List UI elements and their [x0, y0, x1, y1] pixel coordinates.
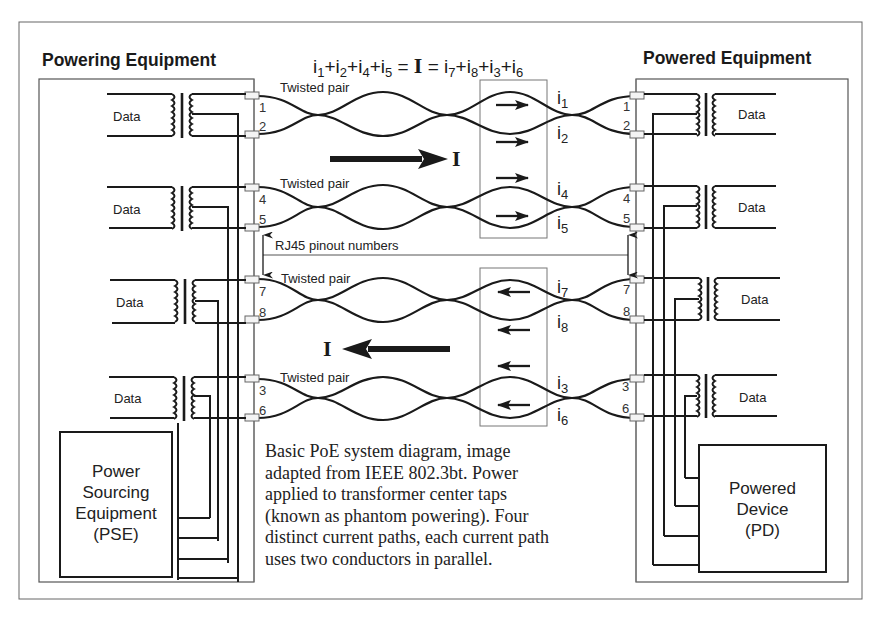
eq-i8: i8: [467, 56, 478, 77]
pse-pin-1: 1: [259, 101, 266, 114]
current-i5: i5: [557, 214, 568, 235]
pse-pin-7: 7: [259, 285, 266, 298]
pd-pin-3: 3: [622, 380, 629, 393]
total-current-forward-label: I: [452, 148, 461, 170]
pd-pin-4: 4: [623, 192, 630, 205]
current-i4: i4: [557, 180, 568, 201]
pse-data-label-4: Data: [114, 392, 141, 405]
powered-equipment-title: Powered Equipment: [643, 50, 811, 68]
current-i3: i3: [557, 374, 568, 395]
twisted-pair-label-3: Twisted pair: [281, 272, 350, 285]
eq-i1: i1: [313, 56, 324, 77]
pd-pin-7: 7: [623, 283, 630, 296]
pd-pin-2: 2: [623, 119, 630, 132]
pse-data-label-1: Data: [113, 110, 140, 123]
pd-pin-5: 5: [623, 212, 630, 225]
pse-pin-6: 6: [259, 404, 266, 417]
twisted-pair-label-2: Twisted pair: [280, 177, 349, 190]
eq-i4: i4: [358, 56, 369, 77]
pd-pin-6: 6: [622, 402, 629, 415]
current-equation: i1+i2+i4+i5 = I = i7+i8+i3+i6: [313, 55, 523, 79]
current-i2: i2: [557, 124, 568, 145]
pd-data-label-3: Data: [741, 293, 768, 306]
current-i6: i6: [557, 406, 568, 427]
pd-pin-8: 8: [623, 305, 630, 318]
current-i8: i8: [557, 313, 568, 334]
eq-i6: i6: [512, 56, 523, 77]
pd-data-label-4: Data: [739, 391, 766, 404]
forward-current-box: [480, 80, 547, 238]
eq-i3: i3: [489, 56, 500, 77]
eq-i2: i2: [336, 56, 347, 77]
eq-i5: i5: [381, 56, 392, 77]
pse-pin-5: 5: [259, 213, 266, 226]
pse-data-label-3: Data: [116, 296, 143, 309]
twisted-pair-label-1: Twisted pair: [280, 81, 349, 94]
diagram-caption: Basic PoE system diagram, image adapted …: [265, 441, 549, 570]
total-current-return-label: I: [323, 338, 332, 360]
pse-pin-4: 4: [259, 193, 266, 206]
pse-pin-2: 2: [259, 120, 266, 133]
powering-equipment-title: Powering Equipment: [42, 52, 216, 70]
current-i1: i1: [557, 89, 568, 110]
pd-box-label: Powered Device (PD): [699, 478, 826, 541]
pse-pin-8: 8: [259, 306, 266, 319]
pd-data-label-1: Data: [738, 108, 765, 121]
pse-box-label: Power Sourcing Equipment (PSE): [60, 461, 172, 545]
current-i7: i7: [557, 278, 568, 299]
pse-data-label-2: Data: [113, 203, 140, 216]
eq-i7: i7: [444, 56, 455, 77]
eq-total: I: [414, 53, 423, 78]
pd-pin-1: 1: [623, 100, 630, 113]
pse-pin-3: 3: [259, 384, 266, 397]
pd-data-label-2: Data: [738, 201, 765, 214]
twisted-pair-label-4: Twisted pair: [280, 371, 349, 384]
rj45-pinout-label: RJ45 pinout numbers: [275, 239, 399, 252]
